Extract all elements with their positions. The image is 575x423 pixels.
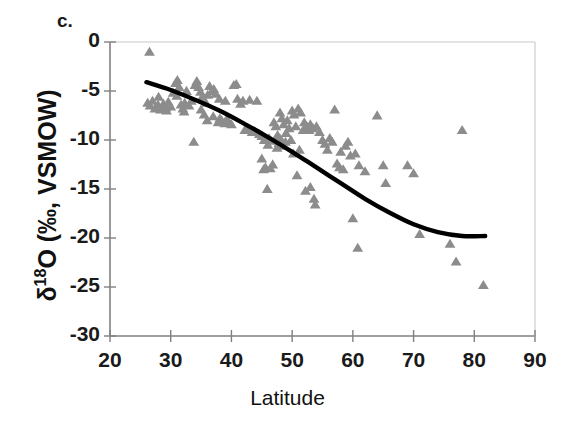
- data-point-0-67: [262, 184, 273, 193]
- data-point-0-131: [408, 168, 419, 177]
- data-point-0-124: [352, 243, 363, 252]
- data-point-0-130: [402, 160, 413, 169]
- data-point-0-134: [451, 256, 462, 265]
- data-point-0-114: [329, 104, 340, 113]
- data-point-0-60: [252, 96, 263, 105]
- data-point-0-128: [378, 160, 389, 169]
- data-point-0-135: [457, 125, 468, 134]
- data-point-0-25: [188, 137, 199, 146]
- trend-line-group: [146, 82, 485, 236]
- figure-panel-c: c. δ18O (‰, VSMOW) Latitude 0-5-10-15-20…: [0, 0, 575, 423]
- data-point-0-7: [153, 92, 164, 101]
- data-point-0-93: [292, 170, 303, 179]
- scatter-plot-canvas: [0, 0, 575, 423]
- data-point-0-125: [354, 160, 365, 169]
- data-point-0-136: [478, 280, 489, 289]
- data-point-0-122: [347, 213, 358, 222]
- trend-line-path: [146, 82, 485, 236]
- data-point-0-64: [256, 153, 267, 162]
- data-point-0-104: [305, 182, 316, 191]
- data-point-0-132: [414, 229, 425, 238]
- data-point-0-105: [309, 194, 320, 203]
- data-point-0-79: [275, 107, 286, 116]
- data-point-0-129: [380, 178, 391, 187]
- data-point-0-0: [144, 47, 155, 56]
- data-point-0-127: [372, 110, 383, 119]
- data-point-0-15: [172, 75, 183, 84]
- data-point-0-120: [343, 137, 354, 146]
- data-point-0-27: [191, 76, 202, 85]
- data-point-0-133: [445, 239, 456, 248]
